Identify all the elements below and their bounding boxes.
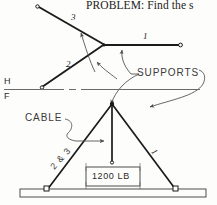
member-1-endpoint-joint xyxy=(179,43,183,47)
leader-to-member-2 xyxy=(97,62,117,79)
cable-lower-hook-joint xyxy=(110,161,113,164)
reference-line-h-label: H xyxy=(4,77,11,86)
member-2-endpoint-joint xyxy=(40,86,43,89)
member-2-label: 2 xyxy=(66,60,71,69)
supports-callout-hook-right xyxy=(199,70,205,84)
left-base-joint xyxy=(44,186,49,191)
problem-heading: PROBLEM: Find the s xyxy=(86,0,194,11)
leader-to-member-1 xyxy=(122,50,131,74)
member-1-label: 1 xyxy=(143,32,148,41)
cable-callout-label: CABLE xyxy=(25,113,62,123)
load-label: 1200 LB xyxy=(92,172,130,181)
member-2-line xyxy=(42,45,104,88)
member-3-label: 3 xyxy=(71,13,76,22)
member-3-endpoint-joint xyxy=(36,5,39,8)
top-view-group xyxy=(36,5,205,107)
supports-callout-label: SUPPORTS xyxy=(137,68,199,78)
figure-canvas: PROBLEM: Find the s 3 2 1 SUPPORTS H F C… xyxy=(0,0,217,205)
right-base-joint xyxy=(173,186,178,191)
supports-leader-to-front-view xyxy=(150,84,203,107)
top-view-common-joint xyxy=(103,44,106,47)
reference-line-f-label: F xyxy=(4,92,10,101)
